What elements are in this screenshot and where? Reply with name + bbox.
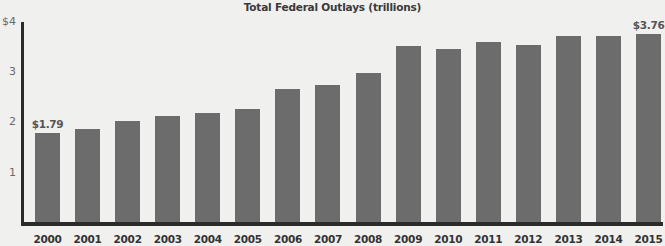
bar-2015 [636, 34, 661, 222]
x-tick-label: 2006 [268, 233, 308, 245]
x-tick-label: 2004 [188, 233, 228, 245]
bar-2012 [516, 45, 541, 222]
x-tick-label: 2009 [388, 233, 428, 245]
data-label-2000: $1.79 [28, 118, 68, 130]
bar-2010 [436, 49, 461, 222]
bar-2003 [155, 116, 180, 222]
bar-2011 [476, 42, 501, 222]
bar-chart: Total Federal Outlays (trillions) 123$4 … [0, 0, 665, 246]
x-axis-line [21, 222, 663, 226]
x-tick-label: 2008 [348, 233, 388, 245]
x-tick-label: 2005 [228, 233, 268, 245]
y-tick-label: 1 [0, 167, 16, 179]
bar-2008 [356, 73, 381, 222]
y-axis-line [21, 22, 24, 226]
y-tick-label: 3 [0, 66, 16, 78]
bar-2005 [235, 109, 260, 222]
bar-2001 [75, 129, 100, 222]
y-tick-label: 2 [0, 116, 16, 128]
x-tick-label: 2003 [148, 233, 188, 245]
x-tick-label: 2012 [508, 233, 548, 245]
bar-2002 [115, 121, 140, 222]
y-tick-label: $4 [0, 16, 16, 28]
x-tick-label: 2015 [629, 233, 665, 245]
x-tick-label: 2013 [548, 233, 588, 245]
bar-2004 [195, 113, 220, 222]
x-tick-label: 2000 [28, 233, 68, 245]
x-tick-label: 2007 [308, 233, 348, 245]
bar-2007 [315, 85, 340, 222]
x-tick-label: 2011 [468, 233, 508, 245]
x-tick-label: 2001 [68, 233, 108, 245]
bar-2006 [275, 89, 300, 222]
bar-2000 [35, 133, 60, 222]
bar-2014 [596, 36, 621, 222]
x-tick-label: 2002 [108, 233, 148, 245]
x-tick-label: 2014 [588, 233, 628, 245]
data-label-2015: $3.76 [629, 19, 665, 31]
bar-2009 [396, 46, 421, 222]
chart-title: Total Federal Outlays (trillions) [0, 1, 665, 13]
bar-2013 [556, 36, 581, 222]
x-tick-label: 2010 [428, 233, 468, 245]
